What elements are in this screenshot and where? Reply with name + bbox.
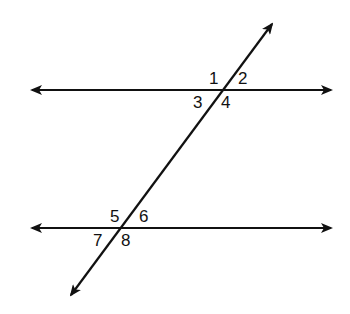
parallel-lines-diagram: 1 2 3 4 5 6 7 8 xyxy=(0,0,350,314)
angle-label-3: 3 xyxy=(193,93,202,112)
angle-label-8: 8 xyxy=(121,231,130,250)
angle-label-1: 1 xyxy=(209,69,218,88)
angle-label-6: 6 xyxy=(139,207,148,226)
angle-label-5: 5 xyxy=(110,207,119,226)
transversal-line xyxy=(71,24,272,295)
angle-label-4: 4 xyxy=(221,93,230,112)
angle-label-7: 7 xyxy=(93,231,102,250)
angle-label-2: 2 xyxy=(238,69,247,88)
